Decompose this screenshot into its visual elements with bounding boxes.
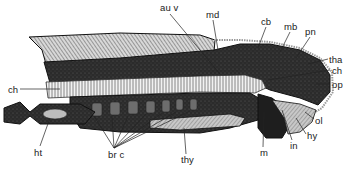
label-ol: ol [315,116,323,126]
label-hy: hy [307,131,317,141]
label-au-v: au v [160,3,178,13]
label-md: md [206,10,219,20]
label-mb: mb [284,22,297,32]
label-op: op [332,80,343,90]
label-ch-right: ch [332,66,342,76]
label-m: m [260,148,268,158]
label-br-c: br c [108,150,124,160]
label-in: in [290,141,298,151]
label-ht: ht [34,148,42,158]
label-tha: tha [329,55,343,65]
label-cb: cb [261,17,271,27]
heart [43,109,67,119]
label-pn: pn [305,27,316,37]
label-thy: thy [181,155,194,165]
anatomical-diagram: au v md cb mb pn tha ch op ol hy in m th… [0,0,352,173]
label-ch-left: ch [8,85,18,95]
specimen-illustration [0,0,352,173]
